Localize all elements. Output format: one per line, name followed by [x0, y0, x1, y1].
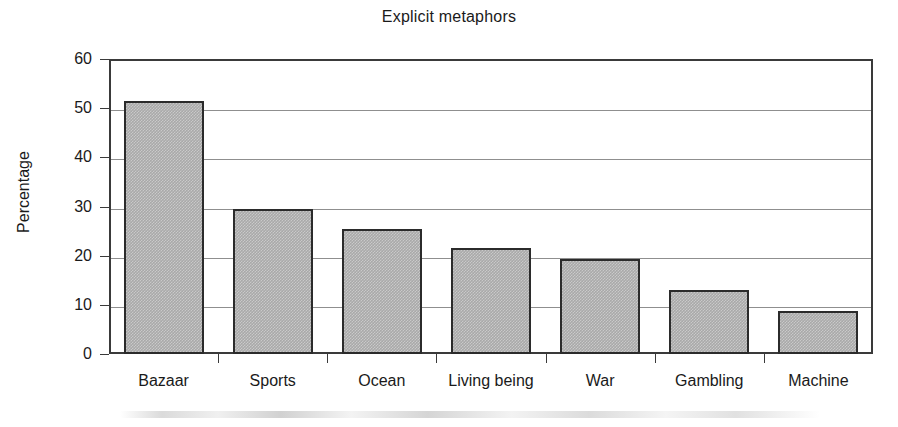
bar-slot [655, 59, 764, 354]
bar[interactable] [342, 229, 422, 354]
bar-slot [546, 59, 655, 354]
bar-chart-figure: Explicit metaphors Percentage BazaarSpor… [0, 0, 898, 427]
bars-layer [109, 59, 873, 354]
scan-artifact [120, 411, 820, 418]
chart-title: Explicit metaphors [0, 8, 898, 26]
y-tick-label: 0 [32, 345, 92, 363]
y-tick-mark [100, 256, 109, 257]
x-tick-label: Sports [250, 372, 296, 390]
bar[interactable] [124, 101, 204, 354]
bar[interactable] [778, 311, 858, 354]
bar-slot [436, 59, 545, 354]
x-tick-label: Machine [788, 372, 848, 390]
x-tick-label: Ocean [358, 372, 405, 390]
y-tick-mark [100, 305, 109, 306]
bar-slot [764, 59, 873, 354]
y-tick-label: 50 [32, 99, 92, 117]
y-tick-label: 40 [32, 148, 92, 166]
y-tick-mark [100, 354, 109, 355]
x-tick-mark [436, 354, 437, 363]
y-tick-label: 60 [32, 50, 92, 68]
y-tick-label: 30 [32, 198, 92, 216]
x-tick-label: Living being [448, 372, 533, 390]
x-tick-mark [218, 354, 219, 363]
x-axis-ticks [109, 354, 873, 364]
x-tick-mark [764, 354, 765, 363]
x-tick-label: War [586, 372, 615, 390]
x-axis-tick-labels: BazaarSportsOceanLiving beingWarGambling… [109, 372, 873, 400]
bar[interactable] [669, 290, 749, 354]
bar-slot [327, 59, 436, 354]
x-tick-label: Gambling [675, 372, 743, 390]
y-tick-label: 20 [32, 247, 92, 265]
y-tick-mark [100, 108, 109, 109]
y-tick-mark [100, 157, 109, 158]
bar-slot [109, 59, 218, 354]
y-tick-mark [100, 59, 109, 60]
x-tick-label: Bazaar [138, 372, 189, 390]
x-tick-mark [327, 354, 328, 363]
y-tick-mark [100, 207, 109, 208]
bar-slot [218, 59, 327, 354]
y-tick-label: 10 [32, 296, 92, 314]
bar[interactable] [233, 209, 313, 354]
x-tick-mark [546, 354, 547, 363]
bar[interactable] [451, 248, 531, 354]
bar[interactable] [560, 259, 640, 354]
x-tick-mark [655, 354, 656, 363]
